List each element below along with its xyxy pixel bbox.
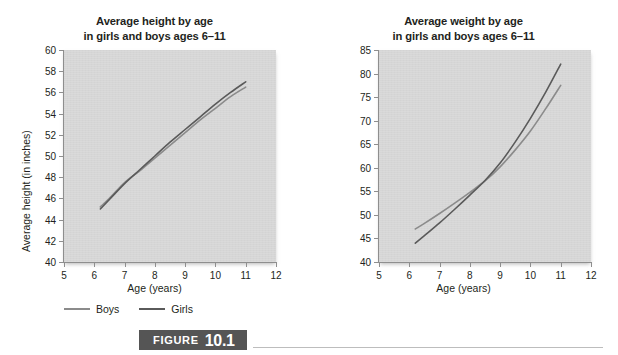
x-axis-title-height: Age (years) bbox=[0, 282, 309, 294]
y-tick-label-height-42: 42 bbox=[45, 235, 56, 246]
figure-number: 10.1 bbox=[205, 332, 235, 350]
series-line-weight-boys bbox=[415, 85, 560, 229]
x-tick-height-9 bbox=[185, 262, 186, 267]
y-tick-label-height-48: 48 bbox=[45, 172, 56, 183]
x-tick-label-weight-12: 12 bbox=[585, 270, 596, 281]
x-tick-weight-5 bbox=[379, 262, 380, 267]
x-tick-weight-11 bbox=[561, 262, 562, 267]
x-axis-line-weight bbox=[379, 262, 591, 263]
legend-label-girls: Girls bbox=[171, 303, 193, 315]
y-tick-label-weight-45: 45 bbox=[360, 233, 371, 244]
y-axis-title-height: Average height (in inches) bbox=[20, 130, 32, 252]
y-tick-label-weight-40: 40 bbox=[360, 257, 371, 268]
chart-title-weight: Average weight by age in girls and boys … bbox=[309, 14, 618, 43]
chart-title-height: Average height by age in girls and boys … bbox=[0, 14, 309, 43]
y-tick-label-weight-75: 75 bbox=[360, 92, 371, 103]
x-tick-height-5 bbox=[64, 262, 65, 267]
x-tick-weight-7 bbox=[440, 262, 441, 267]
x-tick-label-height-10: 10 bbox=[210, 270, 221, 281]
x-tick-height-8 bbox=[155, 262, 156, 267]
series-line-weight-girls bbox=[415, 64, 560, 243]
chart-title-weight-line1: Average weight by age bbox=[309, 14, 618, 29]
figure-label: FIGURE bbox=[153, 334, 199, 346]
y-tick-label-height-56: 56 bbox=[45, 87, 56, 98]
x-tick-label-height-5: 5 bbox=[61, 270, 67, 281]
chart-panel-weight: Average weight by age in girls and boys … bbox=[309, 0, 618, 300]
line-swatch-icon-girls bbox=[139, 308, 165, 310]
x-tick-label-height-6: 6 bbox=[92, 270, 98, 281]
x-tick-weight-8 bbox=[470, 262, 471, 267]
figure-banner: FIGURE 10.1 bbox=[139, 330, 247, 350]
x-tick-label-height-9: 9 bbox=[182, 270, 188, 281]
x-tick-label-height-7: 7 bbox=[122, 270, 128, 281]
y-tick-label-height-60: 60 bbox=[45, 45, 56, 56]
y-tick-label-weight-85: 85 bbox=[360, 45, 371, 56]
x-tick-label-weight-11: 11 bbox=[556, 270, 566, 281]
plot-shell-height: 4042444648505254565860 56789101112 bbox=[64, 50, 276, 262]
x-tick-label-weight-8: 8 bbox=[467, 270, 473, 281]
x-tick-height-12 bbox=[276, 262, 277, 267]
x-tick-weight-6 bbox=[409, 262, 410, 267]
y-tick-label-weight-80: 80 bbox=[360, 68, 371, 79]
x-tick-label-weight-5: 5 bbox=[376, 270, 382, 281]
figure-10-1: Average height by age in girls and boys … bbox=[0, 0, 618, 355]
x-tick-label-weight-7: 7 bbox=[437, 270, 443, 281]
y-tick-label-height-44: 44 bbox=[45, 214, 56, 225]
legend-item-girls: Girls bbox=[139, 303, 193, 315]
x-tick-weight-9 bbox=[500, 262, 501, 267]
y-tick-label-weight-70: 70 bbox=[360, 115, 371, 126]
x-axis-title-weight: Age (years) bbox=[309, 282, 618, 294]
y-tick-label-height-58: 58 bbox=[45, 66, 56, 77]
series-lines-height bbox=[64, 50, 276, 262]
legend-label-boys: Boys bbox=[96, 303, 119, 315]
plot-shell-weight: 40455055606570758085 56789101112 bbox=[379, 50, 591, 262]
x-tick-label-height-11: 11 bbox=[241, 270, 251, 281]
x-tick-height-10 bbox=[215, 262, 216, 267]
legend-item-boys: Boys bbox=[64, 303, 119, 315]
figure-rule bbox=[253, 347, 603, 348]
x-tick-label-weight-6: 6 bbox=[407, 270, 413, 281]
y-tick-label-height-54: 54 bbox=[45, 108, 56, 119]
x-tick-weight-12 bbox=[591, 262, 592, 267]
chart-title-height-line1: Average height by age bbox=[0, 14, 309, 29]
chart-title-weight-line2: in girls and boys ages 6–11 bbox=[309, 29, 618, 44]
y-tick-label-height-40: 40 bbox=[45, 257, 56, 268]
y-tick-label-height-46: 46 bbox=[45, 193, 56, 204]
x-tick-label-height-8: 8 bbox=[152, 270, 158, 281]
figure-caption-row: FIGURE 10.1 bbox=[0, 330, 618, 354]
x-tick-weight-10 bbox=[530, 262, 531, 267]
y-tick-label-height-52: 52 bbox=[45, 129, 56, 140]
series-line-height-boys bbox=[100, 87, 245, 207]
y-tick-label-height-50: 50 bbox=[45, 151, 56, 162]
charts-row: Average height by age in girls and boys … bbox=[0, 0, 618, 300]
y-tick-label-weight-55: 55 bbox=[360, 186, 371, 197]
chart-legend: Boys Girls bbox=[64, 300, 294, 318]
y-tick-label-weight-65: 65 bbox=[360, 139, 371, 150]
x-axis-line-height bbox=[64, 262, 276, 263]
chart-title-height-line2: in girls and boys ages 6–11 bbox=[0, 29, 309, 44]
x-tick-label-weight-9: 9 bbox=[497, 270, 503, 281]
series-lines-weight bbox=[379, 50, 591, 262]
line-swatch-icon-boys bbox=[64, 308, 90, 310]
y-tick-label-weight-50: 50 bbox=[360, 209, 371, 220]
chart-panel-height: Average height by age in girls and boys … bbox=[0, 0, 309, 300]
y-tick-label-weight-60: 60 bbox=[360, 162, 371, 173]
x-tick-height-11 bbox=[246, 262, 247, 267]
x-tick-height-7 bbox=[125, 262, 126, 267]
x-tick-height-6 bbox=[94, 262, 95, 267]
x-tick-label-height-12: 12 bbox=[270, 270, 281, 281]
x-tick-label-weight-10: 10 bbox=[525, 270, 536, 281]
